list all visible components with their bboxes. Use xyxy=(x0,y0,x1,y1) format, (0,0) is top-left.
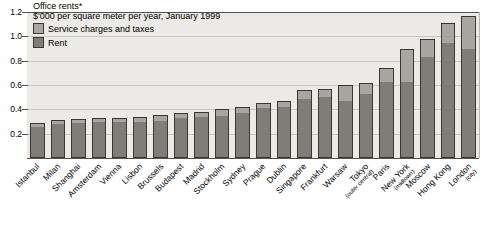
bar xyxy=(338,85,353,158)
bar-segment-rent xyxy=(319,97,332,157)
chart-title: Office rents* xyxy=(33,1,82,11)
bar xyxy=(92,118,107,158)
bar xyxy=(379,68,394,158)
bar-segment-rent xyxy=(401,82,414,157)
bar-segment-rent xyxy=(236,113,249,157)
bar xyxy=(277,101,292,158)
bar-segment-rent xyxy=(278,107,291,157)
bar xyxy=(215,109,230,158)
bar xyxy=(235,107,250,158)
bar xyxy=(400,49,415,159)
bar-segment-rent xyxy=(360,94,373,157)
bar xyxy=(461,16,476,158)
y-tick-label: 0.6 xyxy=(0,81,22,90)
bars-layer xyxy=(27,12,479,158)
bar xyxy=(441,23,456,158)
x-axis-baseline xyxy=(27,158,479,159)
y-tick-label: 1.0 xyxy=(0,32,22,41)
bar xyxy=(51,120,66,158)
bar-segment-service-charges xyxy=(442,24,455,45)
bar-segment-rent xyxy=(31,127,44,157)
y-tick-label: 0.2 xyxy=(0,130,22,139)
bar-segment-rent xyxy=(339,101,352,157)
bar-segment-rent xyxy=(72,123,85,157)
bar-segment-rent xyxy=(257,108,270,157)
office-rents-chart: 0.20.40.60.81.01.2 Office rents* $'000 p… xyxy=(0,0,482,232)
x-axis-label-text: Istanbul xyxy=(13,161,41,189)
bar xyxy=(256,103,271,158)
bar xyxy=(359,83,374,158)
bar xyxy=(112,118,127,158)
bar xyxy=(318,89,333,158)
bar-segment-rent xyxy=(195,117,208,157)
x-axis-label: Vienna xyxy=(99,162,124,187)
y-tick-label: 1.2 xyxy=(0,8,22,17)
bar xyxy=(133,117,148,158)
bar xyxy=(71,119,86,158)
bar-segment-rent xyxy=(421,57,434,157)
bar-segment-service-charges xyxy=(462,17,475,51)
bar-segment-rent xyxy=(52,124,65,157)
bar xyxy=(420,39,435,158)
bar xyxy=(30,123,45,158)
x-axis-label: Istanbul xyxy=(14,162,41,189)
bar-segment-service-charges xyxy=(401,50,414,84)
bar-segment-rent xyxy=(216,116,229,157)
bar xyxy=(153,115,168,158)
y-tick-label: 0.8 xyxy=(0,57,22,66)
bar-segment-rent xyxy=(154,121,167,158)
bar-segment-rent xyxy=(442,43,455,157)
y-tick-label: 0.4 xyxy=(0,105,22,114)
bar-segment-rent xyxy=(380,82,393,157)
bar-segment-rent xyxy=(462,49,475,157)
bar-segment-rent xyxy=(134,122,147,157)
bar-segment-rent xyxy=(113,122,126,157)
bar xyxy=(194,112,209,158)
x-axis-labels: IstanbulMilanShanghaiAmsterdamViennaLisb… xyxy=(0,160,482,232)
bar-segment-rent xyxy=(298,99,311,157)
x-axis-label-text: Vienna xyxy=(98,161,124,187)
bar-segment-rent xyxy=(93,122,106,157)
bar-segment-rent xyxy=(175,118,188,157)
bar xyxy=(174,113,189,158)
bar xyxy=(297,90,312,158)
